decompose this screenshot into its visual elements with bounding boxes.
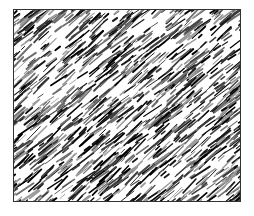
streak-noise-texture [14, 10, 240, 201]
image-canvas [0, 0, 254, 216]
texture-frame [13, 9, 241, 202]
